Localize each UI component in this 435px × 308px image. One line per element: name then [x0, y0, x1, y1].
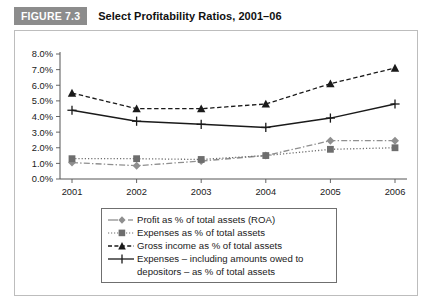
legend-item-profit: Profit as % of total assets (ROA): [107, 214, 330, 226]
series-line: [72, 104, 395, 127]
x-axis-tick-label: 2006: [385, 187, 406, 197]
x-axis-tick-group: 200120022003200420052006: [62, 179, 406, 197]
legend-label-expenses: Expenses as % of total assets: [137, 227, 265, 239]
legend-item-gross-income: Gross income as % of total assets: [107, 240, 330, 252]
series-line: [72, 141, 395, 166]
data-point-marker-plus: [326, 113, 335, 122]
x-axis-tick-label: 2003: [191, 187, 212, 197]
data-point-marker-square: [392, 144, 399, 151]
series-3: [67, 99, 399, 132]
data-point-marker-square: [198, 156, 205, 163]
y-axis-tick-label: 2.0%: [32, 143, 53, 153]
data-point-marker-square: [133, 155, 140, 162]
data-point-marker-diamond: [133, 162, 141, 170]
data-point-marker-plus: [67, 106, 76, 115]
legend-key-plus-icon: [107, 253, 137, 265]
legend-label-expenses-depositors: Expenses – including amounts owed to: [137, 253, 303, 265]
data-point-marker-plus: [261, 123, 270, 132]
legend-item-expenses-depositors: Expenses – including amounts owed to: [107, 253, 330, 265]
data-point-marker-square: [327, 146, 334, 153]
figure-container: FIGURE 7.3 Select Profitability Ratios, …: [0, 0, 435, 308]
data-point-marker-square: [262, 152, 269, 159]
data-point-marker-plus: [132, 117, 141, 126]
y-axis-tick-group: 0.0%1.0%2.0%3.0%4.0%5.0%6.0%7.0%8.0%: [32, 49, 60, 184]
y-axis-tick-label: 5.0%: [32, 96, 53, 106]
figure-frame: 0.0%1.0%2.0%3.0%4.0%5.0%6.0%7.0%8.0% 200…: [14, 30, 418, 296]
y-axis-tick-label: 4.0%: [32, 112, 53, 122]
data-point-marker-triangle: [68, 89, 76, 97]
chart-legend: Profit as % of total assets (ROA) Expens…: [101, 208, 337, 283]
legend-key-square-icon: [107, 227, 137, 239]
data-point-marker-triangle: [391, 64, 399, 72]
y-axis-tick-label: 0.0%: [32, 174, 53, 184]
y-axis-tick-label: 1.0%: [32, 159, 53, 169]
data-point-marker-plus: [197, 120, 206, 129]
figure-title: Select Profitability Ratios, 2001–06: [98, 10, 281, 22]
data-series-group: [67, 64, 399, 170]
data-point-marker-plus: [390, 99, 399, 108]
legend-label-profit: Profit as % of total assets (ROA): [137, 214, 275, 226]
series-0: [68, 137, 399, 170]
series-1: [69, 144, 399, 163]
x-axis-tick-label: 2002: [126, 187, 147, 197]
data-point-marker-square: [69, 155, 76, 162]
legend-item-expenses: Expenses as % of total assets: [107, 227, 330, 239]
figure-header: FIGURE 7.3 Select Profitability Ratios, …: [14, 6, 420, 26]
legend-label-expenses-depositors-line2: depositors – as % of total assets: [137, 266, 330, 278]
series-line: [72, 68, 395, 109]
x-axis-tick-label: 2005: [320, 187, 341, 197]
x-axis-tick-label: 2004: [255, 187, 276, 197]
data-point-marker-diamond: [391, 137, 399, 145]
y-axis-tick-label: 8.0%: [32, 49, 53, 59]
legend-key-diamond-icon: [107, 214, 137, 226]
axis-lines: [60, 52, 407, 179]
data-point-marker-diamond: [326, 137, 334, 145]
figure-number-badge: FIGURE 7.3: [14, 7, 87, 25]
series-2: [68, 64, 399, 112]
x-axis-tick-label: 2001: [62, 187, 83, 197]
y-axis-tick-label: 7.0%: [32, 65, 53, 75]
legend-key-triangle-icon: [107, 240, 137, 252]
legend-label-gross-income: Gross income as % of total assets: [137, 240, 282, 252]
y-axis-tick-label: 6.0%: [32, 81, 53, 91]
y-axis-tick-label: 3.0%: [32, 128, 53, 138]
